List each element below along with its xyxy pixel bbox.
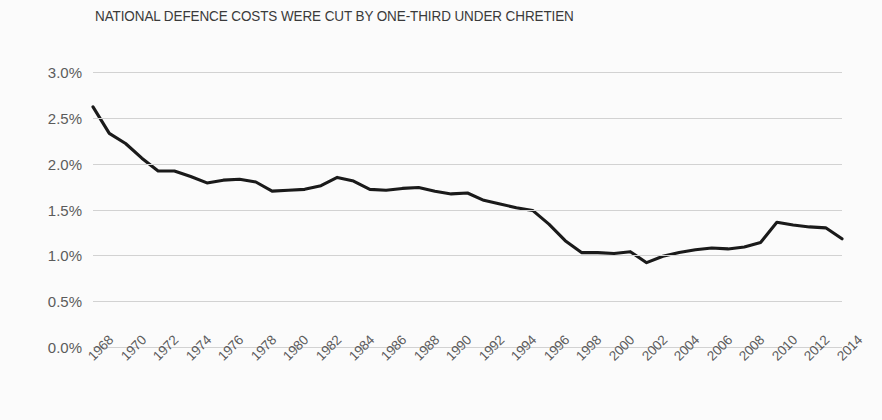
gridline	[93, 255, 842, 256]
y-axis-tick-label: 0.5%	[22, 293, 82, 310]
y-axis: 3.0%2.5%2.0%1.5%1.0%0.5%0.0%	[20, 72, 82, 347]
x-axis: 1968197019721974197619781980198219841986…	[93, 349, 842, 419]
y-axis-tick-label: 3.0%	[22, 64, 82, 81]
gridline	[93, 118, 842, 119]
y-axis-tick-label: 2.0%	[22, 155, 82, 172]
gridline	[93, 301, 842, 302]
y-axis-tick-label: 1.5%	[22, 201, 82, 218]
y-axis-tick-label: 1.0%	[22, 247, 82, 264]
y-axis-tick-label: 0.0%	[22, 339, 82, 356]
gridline	[93, 210, 842, 211]
y-axis-tick-label: 2.5%	[22, 109, 82, 126]
defence-spending-chart: NATIONAL DEFENCE COSTS WERE CUT BY ONE-T…	[0, 0, 882, 420]
chart-title: NATIONAL DEFENCE COSTS WERE CUT BY ONE-T…	[95, 8, 574, 24]
gridline	[93, 164, 842, 165]
plot-area	[93, 72, 842, 347]
gridline	[93, 72, 842, 73]
